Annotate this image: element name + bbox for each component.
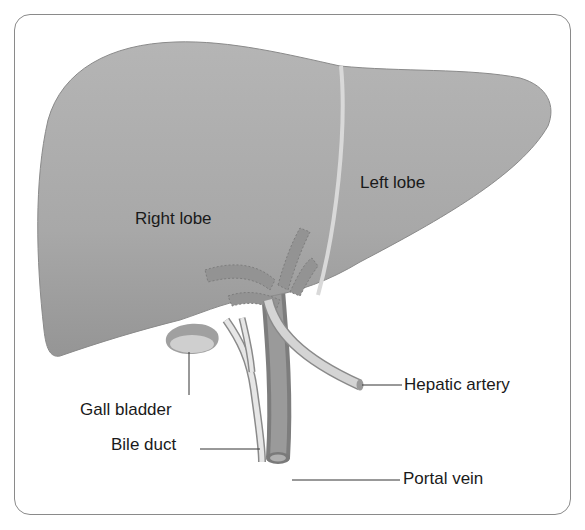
gall-bladder-label: Gall bladder	[80, 401, 172, 418]
bile-duct	[226, 318, 262, 462]
liver-illustration	[0, 0, 585, 530]
right-lobe-label: Right lobe	[135, 210, 212, 227]
liver-outline	[38, 42, 551, 356]
hepatic-artery-label: Hepatic artery	[404, 376, 510, 393]
portal-vein-label: Portal vein	[403, 470, 483, 487]
bile-duct-label: Bile duct	[111, 436, 176, 453]
gall-bladder	[166, 324, 219, 354]
left-lobe-label: Left lobe	[360, 174, 425, 191]
